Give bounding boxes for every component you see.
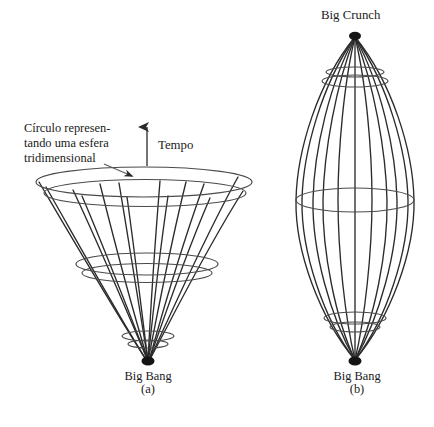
- panel-a-meridians: [39, 177, 243, 361]
- cosmology-diagram: [0, 0, 434, 427]
- time-axis-label: Tempo: [158, 138, 193, 154]
- panel-a-apex-blob: [142, 356, 155, 365]
- panel-a-rings: [36, 167, 252, 348]
- panel-b-bottom-apex-blob: [349, 356, 362, 365]
- panel-a-caption: (a): [113, 382, 183, 397]
- panel-b-caption: (b): [322, 382, 392, 397]
- panel-a-cone: [36, 167, 252, 366]
- panel-b-spindle: [296, 32, 414, 366]
- sphere-annotation-text: Círculo represen- tando uma esfera tridi…: [24, 121, 110, 166]
- big-crunch-label: Big Crunch: [321, 8, 380, 24]
- panel-b-top-apex-blob: [349, 32, 361, 40]
